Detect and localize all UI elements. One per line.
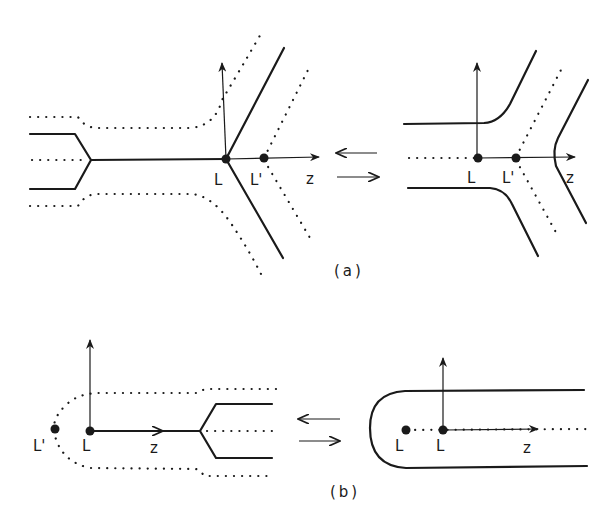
label-L-prime: L' [250, 171, 262, 189]
panel-b-exchange-arrows [298, 419, 340, 441]
label-L-left: L [395, 437, 404, 455]
solid-trunk [91, 159, 226, 160]
point-L-left [402, 426, 411, 435]
dotted-envelope-top [30, 32, 262, 128]
label-L: L [82, 437, 91, 455]
dotted-envelope-bottom [30, 194, 262, 276]
z-axis-arrow [477, 157, 575, 158]
panel-a-right-diagram: L L' z [404, 51, 588, 256]
solid-boundary-upper [404, 51, 536, 124]
solid-branch-upper [226, 48, 284, 159]
solid-fork-left [30, 134, 91, 189]
solid-chevron-right [554, 80, 588, 223]
label-z: z [306, 170, 314, 188]
solid-fork-right [200, 404, 272, 458]
caption-a: (a) [334, 262, 364, 280]
panel-b-left-diagram: L' L z [33, 340, 276, 476]
label-L: L [436, 437, 445, 455]
panel-b-right-diagram: L L z [370, 358, 590, 468]
z-axis-arrow [226, 157, 319, 159]
point-L-prime [260, 154, 269, 163]
point-L [222, 155, 231, 164]
label-z: z [523, 439, 531, 457]
label-L-prime: L' [33, 437, 45, 455]
label-L-prime: L' [502, 169, 514, 187]
point-L-prime [512, 154, 521, 163]
label-L: L [214, 171, 223, 189]
caption-b: (b) [330, 483, 360, 501]
point-L-prime [51, 425, 60, 434]
label-z: z [566, 169, 574, 187]
dotted-branch-upper [264, 66, 310, 158]
solid-boundary-lower [408, 188, 538, 256]
point-L [86, 427, 95, 436]
point-L [439, 426, 448, 435]
panel-a-left-diagram: L L' z [30, 32, 319, 276]
panel-a-exchange-arrows [336, 153, 379, 177]
vertical-axis-arrow [222, 63, 226, 159]
point-L [474, 154, 483, 163]
label-z: z [150, 439, 158, 457]
z-axis-arrow [443, 429, 538, 430]
label-L: L [467, 169, 476, 187]
figure-canvas: L L' z L L' z (a) [0, 0, 612, 510]
